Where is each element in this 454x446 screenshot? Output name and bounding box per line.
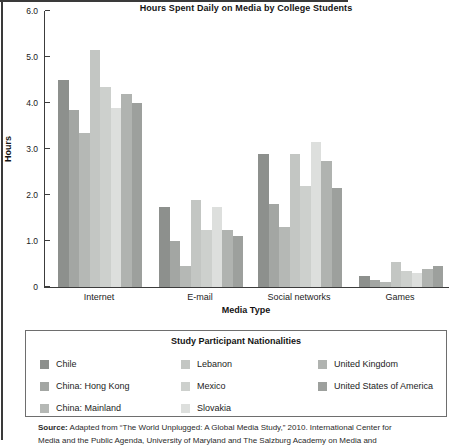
y-tick-label: 4.0 — [16, 98, 38, 108]
y-axis-label: Hours — [3, 116, 13, 182]
x-axis-label: Media Type — [44, 305, 448, 315]
bar — [132, 103, 143, 287]
y-tick-label: 5.0 — [16, 52, 38, 62]
bar-group — [258, 11, 342, 287]
bar — [100, 87, 111, 287]
y-tick — [45, 10, 50, 11]
legend-item: Mexico — [181, 375, 318, 397]
page-edge-top-rule — [0, 0, 348, 2]
bar-group — [159, 11, 243, 287]
legend-swatch — [318, 382, 327, 391]
legend-item: China: Mainland — [40, 397, 181, 419]
bar — [69, 110, 80, 287]
legend-item: United States of America — [318, 375, 446, 397]
bar — [422, 269, 433, 287]
legend-swatch — [40, 382, 49, 391]
bar — [79, 133, 90, 287]
bar — [159, 207, 170, 288]
bar-group — [359, 11, 443, 287]
y-tick — [45, 194, 50, 195]
y-tick-label: 1.0 — [16, 236, 38, 246]
legend-item-label: Mexico — [197, 381, 226, 391]
x-category-label: E-mail — [155, 292, 245, 302]
legend-item: China: Hong Kong — [40, 375, 181, 397]
x-category-label: Games — [355, 292, 445, 302]
legend-swatch — [40, 404, 49, 413]
bar — [290, 154, 301, 287]
bar — [401, 271, 412, 287]
legend-item-label: United Kingdom — [334, 359, 398, 369]
legend-item: Lebanon — [181, 353, 318, 375]
y-tick — [45, 240, 50, 241]
y-tick-label: 2.0 — [16, 190, 38, 200]
legend-swatch — [181, 404, 190, 413]
page-edge-left-rule — [1, 0, 3, 440]
bar — [58, 80, 69, 287]
x-category-label: Internet — [54, 292, 144, 302]
bar — [233, 236, 244, 287]
bar — [170, 241, 181, 287]
legend-item: Chile — [40, 353, 181, 375]
y-tick-label: 6.0 — [16, 6, 38, 16]
legend-box: Study Participant Nationalities ChileChi… — [25, 330, 447, 417]
y-tick — [45, 286, 50, 287]
source-text: Adapted from “The World Unplugged: A Glo… — [68, 423, 392, 432]
legend-item-label: Slovakia — [197, 403, 231, 413]
bar — [212, 207, 223, 288]
bar — [279, 227, 290, 287]
bar — [269, 204, 280, 287]
source-label: Source: — [38, 423, 68, 432]
bar — [111, 108, 122, 287]
bar — [258, 154, 269, 287]
source-note: Source: Adapted from “The World Unplugge… — [38, 423, 450, 433]
bar — [121, 94, 132, 287]
legend-item-label: China: Mainland — [56, 403, 121, 413]
x-category-label: Social networks — [254, 292, 344, 302]
legend-swatch — [181, 382, 190, 391]
y-tick — [45, 148, 50, 149]
legend-title: Study Participant Nationalities — [26, 336, 446, 346]
legend-item: Slovakia — [181, 397, 318, 419]
bar — [222, 230, 233, 288]
bar — [391, 262, 402, 287]
legend-item-label: China: Hong Kong — [56, 381, 130, 391]
y-tick — [45, 102, 50, 103]
legend-swatch — [181, 360, 190, 369]
bar — [311, 142, 322, 287]
bar — [300, 186, 311, 287]
y-tick — [45, 56, 50, 57]
legend-swatch — [40, 360, 49, 369]
bar — [433, 266, 444, 287]
bar — [412, 273, 423, 287]
plot-area — [44, 11, 449, 288]
bar-group — [58, 11, 142, 287]
legend-item-label: Lebanon — [197, 359, 232, 369]
y-tick-label: 0 — [16, 282, 38, 292]
legend-item: United Kingdom — [318, 353, 446, 375]
legend-item-label: United States of America — [334, 381, 433, 391]
bar — [201, 230, 212, 288]
legend-items: ChileChina: Hong KongChina: MainlandLeba… — [40, 353, 446, 419]
bar — [370, 280, 381, 287]
legend-swatch — [318, 360, 327, 369]
bar — [359, 276, 370, 288]
bar — [191, 200, 202, 287]
bar — [321, 161, 332, 288]
legend-item-label: Chile — [56, 359, 77, 369]
bar — [90, 50, 101, 287]
bar — [380, 282, 391, 287]
bar — [332, 188, 343, 287]
source-note-line2: Media and the Public Agenda, University … — [38, 436, 450, 446]
bar — [180, 266, 191, 287]
y-tick-label: 3.0 — [16, 144, 38, 154]
